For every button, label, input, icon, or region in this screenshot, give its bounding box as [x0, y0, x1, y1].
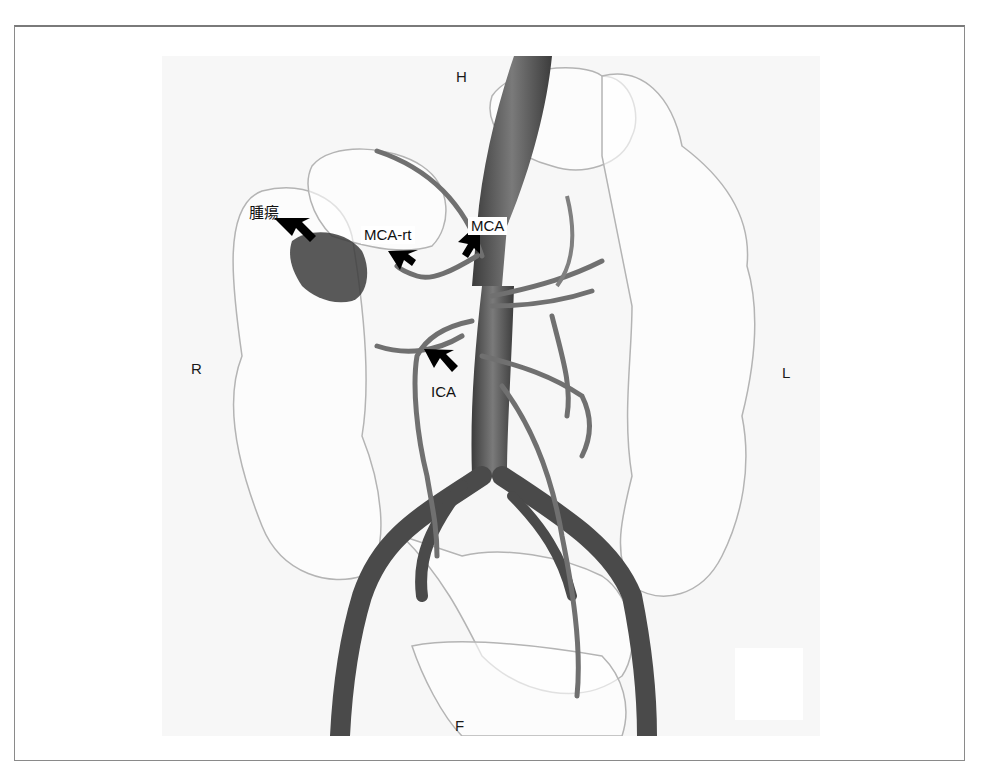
blank-patch	[735, 648, 803, 720]
ica-label: ICA	[428, 383, 459, 401]
volume-rendering	[162, 56, 820, 736]
tumor-label: 腫瘍	[246, 204, 282, 222]
orientation-left-label: L	[782, 364, 790, 381]
ica-arrow-icon	[424, 349, 458, 372]
aorta-upper	[472, 56, 552, 286]
ct-angiography-image	[162, 56, 820, 736]
orientation-head-label: H	[456, 68, 467, 85]
aorta-lower	[471, 286, 514, 476]
mca-label: MCA	[468, 217, 507, 235]
orientation-foot-label: F	[455, 717, 464, 734]
orientation-right-label: R	[191, 360, 202, 377]
mca-rt-arrow-icon	[388, 250, 418, 270]
mca-rt-label: MCA-rt	[361, 226, 415, 244]
